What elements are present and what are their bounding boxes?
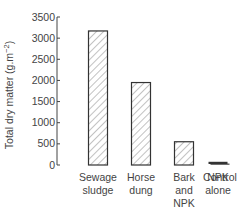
y-tick-label: 1500 <box>32 95 56 107</box>
y-tick-label: 500 <box>37 137 55 149</box>
bar <box>175 142 194 165</box>
x-category-label: sludge <box>83 184 114 196</box>
x-category-label: alone <box>205 184 231 196</box>
y-axis-label: Total dry matter (g.m−2) <box>2 41 15 149</box>
x-category-label: Sewage <box>79 171 117 183</box>
x-category-label: Bark <box>173 171 195 183</box>
y-tick-label: 3500 <box>32 11 56 23</box>
y-tick-label: 3000 <box>32 32 56 44</box>
bar <box>132 83 151 165</box>
x-axis-labels: SewagesludgeHorsedungBarkandNPKNPKaloneC… <box>79 171 237 209</box>
x-category-label: Control <box>203 171 237 183</box>
y-tick-label: 1000 <box>32 116 56 128</box>
y-tick-label: 2500 <box>32 53 56 65</box>
bar-chart: 0500100015002000250030003500 Sewagesludg… <box>0 0 249 212</box>
x-category-label: Horse <box>127 171 155 183</box>
y-tick-label: 0 <box>49 159 55 171</box>
x-category-label: dung <box>129 184 153 196</box>
bar <box>89 31 108 165</box>
y-tick-label: 2000 <box>32 74 56 86</box>
bars <box>89 31 230 165</box>
x-category-label: NPK <box>173 197 195 209</box>
x-category-label: and <box>175 184 193 196</box>
y-axis: 0500100015002000250030003500 <box>32 11 60 171</box>
